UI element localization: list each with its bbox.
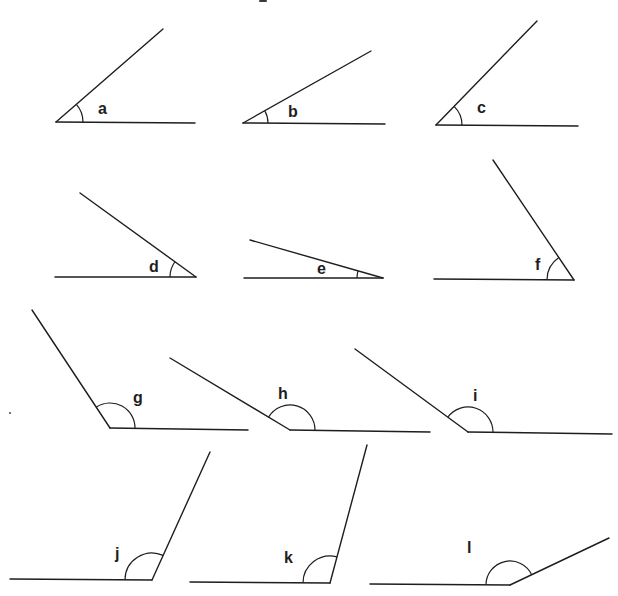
base-arm bbox=[243, 123, 385, 124]
angle-k: k bbox=[190, 445, 367, 583]
inclined-arm bbox=[436, 21, 537, 125]
angle-c: c bbox=[436, 21, 578, 126]
inclined-arm bbox=[510, 538, 609, 585]
angle-label: j bbox=[114, 545, 119, 562]
base-arm bbox=[436, 125, 578, 126]
inclined-arm bbox=[493, 160, 574, 280]
angle-f: f bbox=[434, 160, 574, 280]
angle-h: h bbox=[170, 358, 430, 432]
inclined-arm bbox=[56, 29, 163, 122]
angle-label: f bbox=[535, 256, 541, 273]
angle-label: b bbox=[288, 103, 298, 120]
cropped-text-fragment bbox=[259, 0, 267, 2]
angle-a: a bbox=[56, 29, 195, 123]
inclined-arm bbox=[80, 193, 196, 277]
angle-i: i bbox=[355, 349, 612, 434]
base-arm bbox=[290, 430, 430, 432]
print-speck bbox=[9, 412, 11, 414]
base-arm bbox=[190, 582, 330, 583]
inclined-arm bbox=[355, 349, 468, 432]
angle-arc bbox=[448, 407, 493, 432]
angle-d: d bbox=[55, 193, 196, 277]
angle-arc bbox=[265, 111, 268, 123]
angle-b: b bbox=[243, 51, 385, 124]
base-arm bbox=[110, 428, 248, 430]
angle-arc bbox=[454, 106, 462, 125]
angle-arc bbox=[170, 262, 175, 277]
angle-group: abcdefghijkl bbox=[10, 21, 612, 585]
angle-label: e bbox=[317, 260, 326, 277]
inclined-arm bbox=[152, 452, 210, 580]
angle-diagram: abcdefghijkl bbox=[0, 0, 618, 596]
base-arm bbox=[370, 584, 510, 585]
angle-label: a bbox=[98, 100, 107, 117]
angle-arc bbox=[269, 405, 315, 430]
base-arm bbox=[10, 579, 152, 580]
angle-e: e bbox=[244, 240, 383, 278]
angle-g: g bbox=[32, 310, 248, 430]
angle-label: k bbox=[284, 549, 293, 566]
angle-arc bbox=[486, 561, 532, 585]
angle-arc bbox=[547, 258, 559, 280]
angle-label: h bbox=[278, 385, 288, 402]
base-arm bbox=[434, 279, 574, 280]
angle-j: j bbox=[10, 452, 210, 580]
angle-label: g bbox=[133, 389, 143, 406]
inclined-arm bbox=[330, 445, 367, 583]
base-arm bbox=[56, 122, 195, 123]
inclined-arm bbox=[32, 310, 110, 428]
angle-arc bbox=[303, 556, 337, 583]
inclined-arm bbox=[170, 358, 290, 430]
angle-arc bbox=[357, 271, 358, 278]
angle-label: c bbox=[477, 99, 486, 116]
angle-arc bbox=[76, 104, 83, 122]
inclined-arm bbox=[243, 51, 371, 123]
angle-label: d bbox=[149, 258, 159, 275]
base-arm bbox=[468, 432, 612, 434]
angle-l: l bbox=[370, 538, 609, 585]
angle-label: l bbox=[467, 539, 471, 556]
angle-label: i bbox=[473, 387, 477, 404]
